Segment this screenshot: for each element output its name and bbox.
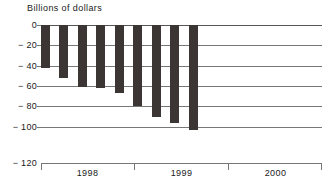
bar-q4-1998 xyxy=(96,25,105,88)
chart-title: Billions of dollars xyxy=(27,3,102,13)
bar-q3-1998 xyxy=(78,25,87,87)
y-tick-label: − 60 xyxy=(3,81,37,91)
bar-q1-1999 xyxy=(115,25,124,93)
gridline-minus100 xyxy=(41,127,322,128)
chart-figure: Billions of dollars 0 − 20 − 40 − 60 − 8… xyxy=(0,0,336,191)
gridline-minus80 xyxy=(41,106,322,107)
y-tick-label: − 40 xyxy=(3,61,37,71)
bar-q2-1999 xyxy=(133,25,142,106)
bar-q4-1999 xyxy=(170,25,179,123)
y-axis-labels: 0 − 20 − 40 − 60 − 80 − 100 − 120 xyxy=(0,0,37,191)
bar-q1-2000 xyxy=(189,25,198,130)
bar-q3-1999 xyxy=(152,25,161,117)
x-group-label-2000: 2000 xyxy=(229,168,322,178)
bar-q2-1998 xyxy=(59,25,68,78)
x-group-label-1998: 1998 xyxy=(41,168,134,178)
bar-q1-1998 xyxy=(41,25,50,68)
y-tick-label: − 100 xyxy=(3,122,37,132)
y-tick-label: − 80 xyxy=(3,101,37,111)
y-tick-label: 0 xyxy=(3,20,37,30)
x-group-label-1999: 1999 xyxy=(135,168,228,178)
x-axis-line xyxy=(41,163,322,164)
y-tick-label: − 20 xyxy=(3,40,37,50)
y-tick-label: − 120 xyxy=(3,158,37,168)
plot-area xyxy=(41,25,322,147)
